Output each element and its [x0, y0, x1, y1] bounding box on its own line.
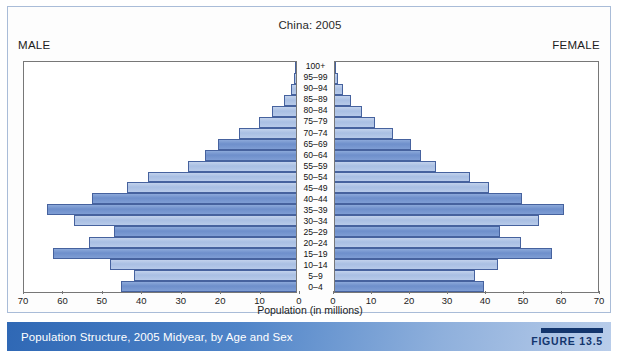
female-bar-70_74 [335, 128, 393, 139]
bar-row [24, 193, 296, 204]
male-bar-30_34 [74, 215, 296, 226]
male-side-label: MALE [18, 39, 51, 51]
bar-row [24, 150, 296, 161]
age-label: 25–29 [297, 227, 334, 238]
bar-row [24, 237, 296, 248]
axis-tick-mark [299, 291, 300, 294]
male-bar-90_94 [291, 84, 296, 95]
bar-row [335, 84, 598, 95]
bar-row [24, 128, 296, 139]
bar-row [24, 270, 296, 281]
bar-row [335, 73, 598, 84]
female-bar-20_24 [335, 237, 521, 248]
female-bar-100+ [335, 62, 336, 73]
male-bar-35_39 [47, 204, 296, 215]
bar-row [335, 248, 598, 259]
age-label: 0–4 [297, 282, 334, 293]
male-bar-10_14 [110, 259, 296, 270]
axis-tick-mark [260, 291, 261, 294]
female-bar-45_49 [335, 182, 489, 193]
age-label: 100+ [297, 61, 334, 72]
female-bar-40_44 [335, 193, 522, 204]
bar-row [24, 84, 296, 95]
female-bar-50_54 [335, 172, 470, 183]
age-label: 80–84 [297, 105, 334, 116]
male-bar-70_74 [239, 128, 296, 139]
chart-card: China: 2005 MALE FEMALE 100+95–9990–9485… [7, 6, 611, 313]
chart-title: China: 2005 [8, 19, 612, 31]
figure-number-tag: FIGURE 13.5 [531, 328, 603, 347]
female-bar-15_19 [335, 248, 552, 259]
bar-row [24, 106, 296, 117]
axis-tick-mark [485, 291, 486, 294]
male-bar-rows [24, 62, 296, 292]
age-label: 20–24 [297, 238, 334, 249]
bar-row [24, 172, 296, 183]
bar-row [24, 73, 296, 84]
male-bar-40_44 [92, 193, 296, 204]
bar-row [335, 161, 598, 172]
age-label: 65–69 [297, 138, 334, 149]
bar-row [335, 226, 598, 237]
bar-row [24, 281, 296, 292]
female-bar-80_84 [335, 106, 362, 117]
bar-row [24, 62, 296, 73]
age-label: 35–39 [297, 205, 334, 216]
age-label: 10–14 [297, 260, 334, 271]
axis-tick-mark [23, 291, 24, 294]
age-label: 30–34 [297, 216, 334, 227]
axis-tick-mark [333, 291, 334, 294]
bar-row [335, 128, 598, 139]
bar-row [335, 117, 598, 128]
axis-tick-mark [599, 291, 600, 294]
male-bar-100+ [295, 62, 296, 73]
figure-caption-bar: Population Structure, 2005 Midyear, by A… [7, 322, 611, 351]
female-bar-10_14 [335, 259, 498, 270]
age-label: 75–79 [297, 116, 334, 127]
axis-tick-mark [561, 291, 562, 294]
bar-row [24, 248, 296, 259]
bar-row [335, 259, 598, 270]
female-bar-75_79 [335, 117, 375, 128]
female-bar-95_99 [335, 73, 338, 84]
population-pyramid-plot: 100+95–9990–9485–8980–8475–7970–7465–696… [23, 61, 599, 293]
female-bar-30_34 [335, 215, 539, 226]
bar-row [24, 95, 296, 106]
female-bar-rows [335, 62, 598, 292]
bar-row [335, 95, 598, 106]
female-bar-85_89 [335, 95, 351, 106]
bar-row [335, 215, 598, 226]
age-label: 50–54 [297, 171, 334, 182]
bar-row [335, 150, 598, 161]
axis-tick-mark [181, 291, 182, 294]
male-bar-15_19 [53, 248, 296, 259]
female-bar-90_94 [335, 84, 343, 95]
age-label: 5–9 [297, 271, 334, 282]
age-label: 95–99 [297, 72, 334, 83]
axis-tick-mark [447, 291, 448, 294]
female-bar-35_39 [335, 204, 564, 215]
male-panel [23, 61, 297, 293]
male-bar-0_4 [121, 281, 296, 292]
axis-tick-mark [371, 291, 372, 294]
bar-row [335, 139, 598, 150]
female-bar-60_64 [335, 150, 421, 161]
x-axis-title: Population (in millions) [8, 304, 612, 316]
female-bar-55_59 [335, 161, 436, 172]
bar-row [335, 172, 598, 183]
bar-row [335, 281, 598, 292]
female-side-label: FEMALE [552, 39, 600, 51]
axis-tick-mark [523, 291, 524, 294]
figure-container: China: 2005 MALE FEMALE 100+95–9990–9485… [0, 0, 617, 358]
figure-number-label: FIGURE 13.5 [531, 335, 603, 347]
male-bar-75_79 [259, 117, 296, 128]
age-label: 90–94 [297, 83, 334, 94]
age-group-labels: 100+95–9990–9485–8980–8475–7970–7465–696… [297, 61, 334, 293]
figure-tag-rule [541, 328, 603, 333]
bar-row [335, 193, 598, 204]
female-bar-25_29 [335, 226, 500, 237]
bar-row [24, 204, 296, 215]
age-label: 70–74 [297, 127, 334, 138]
male-bar-85_89 [284, 95, 296, 106]
male-bar-80_84 [272, 106, 296, 117]
